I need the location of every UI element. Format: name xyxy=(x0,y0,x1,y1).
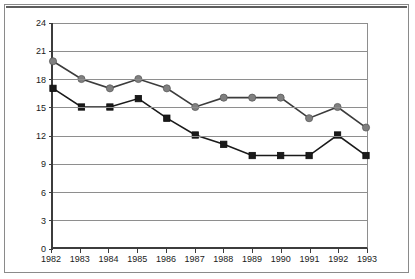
gridline xyxy=(53,164,367,165)
gridline xyxy=(53,220,367,221)
y-tick-mark xyxy=(49,192,53,193)
x-tick-mark xyxy=(281,249,282,253)
x-tick-label: 1983 xyxy=(70,255,90,264)
y-tick-mark xyxy=(49,136,53,137)
series-gray-circle-marker xyxy=(249,94,256,101)
series-black-square-marker xyxy=(50,85,56,91)
series-black-square-marker xyxy=(363,152,369,158)
x-tick-label: 1990 xyxy=(271,255,291,264)
series-black-square-line xyxy=(53,88,366,155)
y-axis-tick-labels: 03691215182124 xyxy=(22,23,46,249)
series-gray-circle-line xyxy=(53,61,366,127)
series-black-square-marker xyxy=(277,152,283,158)
y-tick-mark xyxy=(49,51,53,52)
y-tick-label: 9 xyxy=(41,160,46,169)
x-tick-mark xyxy=(51,249,52,253)
x-tick-label: 1989 xyxy=(242,255,262,264)
x-tick-label: 1988 xyxy=(213,255,233,264)
x-tick-label: 1984 xyxy=(98,255,118,264)
y-tick-label: 21 xyxy=(36,47,46,56)
series-gray-circle-marker xyxy=(306,115,313,122)
x-axis-tick-labels: 1982198319841985198619871988198919901991… xyxy=(51,255,368,269)
y-tick-label: 3 xyxy=(41,216,46,225)
x-tick-mark xyxy=(166,249,167,253)
y-tick-label: 18 xyxy=(36,75,46,84)
y-tick-label: 24 xyxy=(36,19,46,28)
series-gray-circle-marker xyxy=(163,85,170,92)
series-black-square xyxy=(50,85,369,159)
y-tick-mark xyxy=(49,164,53,165)
x-tick-label: 1982 xyxy=(41,255,61,264)
x-tick-label: 1986 xyxy=(156,255,176,264)
x-tick-mark xyxy=(108,249,109,253)
series-gray-circle-marker xyxy=(277,94,284,101)
x-tick-label: 1991 xyxy=(300,255,320,264)
line-chart: Years 03691215182124 1982198319841985198… xyxy=(0,0,415,279)
x-tick-mark xyxy=(338,249,339,253)
y-tick-label: 0 xyxy=(41,245,46,254)
x-tick-mark xyxy=(195,249,196,253)
x-tick-mark xyxy=(223,249,224,253)
x-tick-label: 1993 xyxy=(357,255,377,264)
series-black-square-marker xyxy=(249,152,255,158)
gridline xyxy=(53,192,367,193)
x-tick-mark xyxy=(252,249,253,253)
y-tick-label: 6 xyxy=(41,188,46,197)
series-gray-circle-marker xyxy=(220,94,227,101)
series-black-square-marker xyxy=(306,152,312,158)
y-tick-label: 15 xyxy=(36,103,46,112)
gridline xyxy=(53,23,367,24)
x-tick-label: 1985 xyxy=(127,255,147,264)
y-tick-mark xyxy=(49,23,53,24)
y-tick-mark xyxy=(49,220,53,221)
gridline xyxy=(53,136,367,137)
gridline xyxy=(53,107,367,108)
series-gray-circle-marker xyxy=(49,58,56,65)
y-tick-label: 12 xyxy=(36,132,46,141)
series-black-square-marker xyxy=(221,141,227,147)
x-tick-mark xyxy=(137,249,138,253)
x-tick-mark xyxy=(310,249,311,253)
y-tick-mark xyxy=(49,107,53,108)
gridline xyxy=(53,51,367,52)
plot-area xyxy=(51,23,368,249)
gridline xyxy=(53,79,367,80)
series-gray-circle-marker xyxy=(106,85,113,92)
series-black-square-marker xyxy=(135,95,141,101)
series-gray-circle xyxy=(49,58,369,131)
series-gray-circle-marker xyxy=(362,124,369,131)
chart-screenshot: Years 03691215182124 1982198319841985198… xyxy=(0,0,415,279)
y-tick-mark xyxy=(49,79,53,80)
x-tick-label: 1992 xyxy=(328,255,348,264)
x-tick-mark xyxy=(80,249,81,253)
series-black-square-marker xyxy=(164,115,170,121)
x-tick-label: 1987 xyxy=(185,255,205,264)
x-tick-mark xyxy=(367,249,368,253)
